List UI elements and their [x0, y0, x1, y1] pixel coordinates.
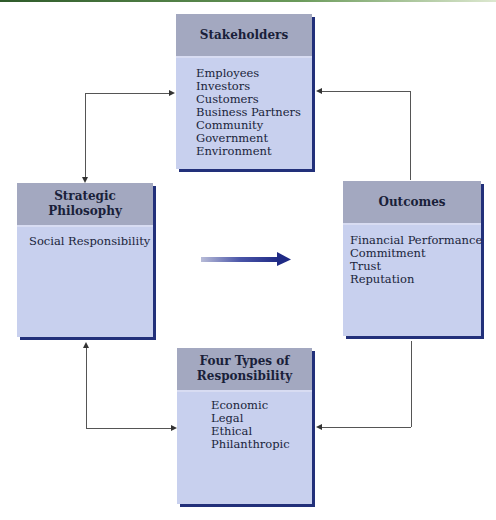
- four-types-box: Four Types of Responsibility Economic Le…: [177, 348, 312, 504]
- outcomes-list: Financial Performance Commitment Trust R…: [343, 225, 481, 286]
- four-types-header: Four Types of Responsibility: [177, 348, 312, 392]
- connector-outcomes-fourtypes-v: [411, 341, 412, 427]
- strategic-philosophy-header: Strategic Philosophy: [17, 183, 153, 227]
- outcomes-box: Outcomes Financial Performance Commitmen…: [343, 181, 481, 336]
- strategic-philosophy-title: Strategic Philosophy: [40, 189, 130, 219]
- stakeholders-title: Stakeholders: [200, 28, 288, 43]
- stakeholders-header: Stakeholders: [176, 14, 312, 58]
- top-border: [0, 0, 496, 2]
- center-arrow-icon: [201, 252, 291, 266]
- connector-strategic-stakeholders-v: [85, 93, 86, 177]
- stakeholders-box: Stakeholders Employees Investors Custome…: [176, 14, 312, 169]
- list-item: Philanthropic: [211, 438, 312, 451]
- list-item: Reputation: [350, 273, 481, 286]
- outcomes-title: Outcomes: [378, 195, 445, 210]
- arrowhead-left-icon: [316, 424, 322, 430]
- four-types-title: Four Types of Responsibility: [190, 354, 300, 384]
- four-types-list: Economic Legal Ethical Philanthropic: [177, 392, 312, 451]
- connector-outcomes-fourtypes-h: [322, 427, 411, 428]
- connector-strategic-fourtypes-h: [86, 428, 171, 429]
- arrowhead-left-icon: [316, 88, 322, 94]
- strategic-philosophy-box: Strategic Philosophy Social Responsibili…: [17, 183, 153, 337]
- arrowhead-up-icon: [83, 342, 89, 348]
- connector-outcomes-stakeholders-v: [410, 91, 411, 180]
- connector-strategic-fourtypes-v: [86, 348, 87, 428]
- connector-strategic-stakeholders-h: [85, 93, 169, 94]
- strategic-philosophy-list: Social Responsibility: [17, 227, 153, 248]
- stakeholders-list: Employees Investors Customers Business P…: [176, 58, 312, 158]
- list-item: Social Responsibility: [29, 235, 153, 248]
- outcomes-header: Outcomes: [343, 181, 481, 225]
- connector-outcomes-stakeholders-h: [322, 91, 410, 92]
- list-item: Environment: [196, 145, 312, 158]
- arrowhead-right-icon: [169, 90, 175, 96]
